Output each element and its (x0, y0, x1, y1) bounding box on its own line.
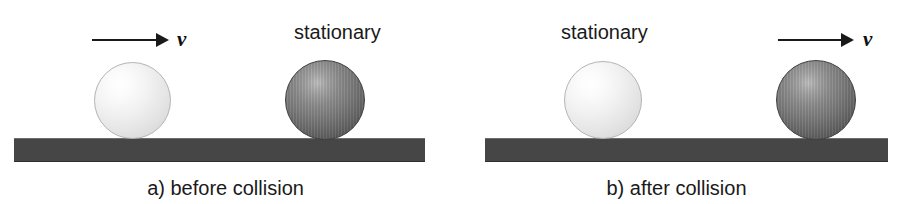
stationary-label-b: stationary (561, 22, 648, 42)
velocity-arrow-a (92, 33, 169, 47)
velocity-arrow-b (778, 33, 854, 47)
ground-surface-b (485, 138, 888, 162)
velocity-label-a: v (177, 29, 186, 50)
panel-caption-a: a) before collision (0, 178, 451, 198)
ground-surface-a (14, 138, 425, 162)
arrow-shaft (92, 39, 156, 41)
arrow-shaft (778, 39, 841, 41)
velocity-label-b: v (863, 29, 872, 50)
dark-ball-a (285, 60, 365, 140)
light-ball-a (94, 62, 171, 139)
light-ball-b (564, 61, 642, 139)
arrow-head-icon (156, 33, 169, 47)
dark-ball-b (776, 60, 856, 140)
panel-caption-b: b) after collision (451, 178, 902, 198)
collision-figure: v stationary a) before collision station… (0, 0, 902, 204)
stationary-label-a: stationary (294, 22, 381, 42)
arrow-head-icon (841, 33, 854, 47)
